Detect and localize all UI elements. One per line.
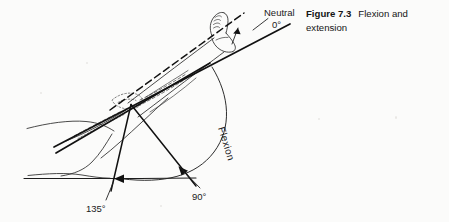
flexion-arc-group (114, 67, 227, 183)
leader-neutral (253, 19, 268, 31)
arc-arrowhead-135 (114, 175, 124, 183)
toe-2 (214, 19, 221, 21)
ankle-crease (216, 37, 228, 40)
heel-contour (226, 33, 235, 52)
toe-4 (214, 27, 220, 28)
neutral-arrowhead (233, 28, 240, 34)
toe-3 (214, 23, 221, 25)
body-outline-group (27, 98, 168, 176)
toe-1 (215, 16, 222, 18)
label-neutral: Neutral (264, 7, 295, 18)
label-neutral-angle: 0° (272, 19, 281, 30)
neutral-arrow-group (232, 28, 241, 44)
figure-container: Neutral 0° Flexion 90° 135° Figure 7.3Fl… (0, 0, 449, 222)
foot-anterior-contour (224, 13, 228, 33)
label-angle-135: 135° (86, 203, 106, 214)
figure-number: Figure 7.3 (306, 8, 351, 19)
label-angle-90: 90° (192, 191, 207, 202)
foot-sole-contour (212, 39, 233, 53)
leg-posterior-contour (138, 52, 224, 117)
figure-caption: Figure 7.3Flexion and extension (306, 7, 446, 34)
leader-135 (106, 183, 113, 200)
neutral-axis-group (54, 24, 290, 153)
